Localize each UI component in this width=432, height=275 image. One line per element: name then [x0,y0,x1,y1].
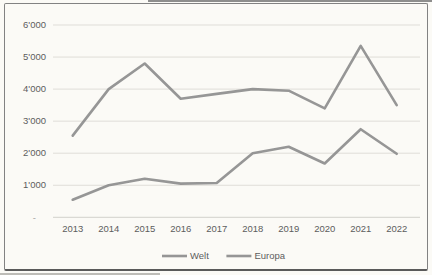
y-axis-tick-label: 6'000 [23,19,46,30]
x-axis-tick-label: 2019 [278,223,299,234]
x-axis-tick-label: 2016 [170,223,191,234]
series-line-europa [73,129,397,200]
y-axis-tick-label: - [33,212,36,223]
y-axis-tick-label: 4'000 [23,83,46,94]
legend-label-europa: Europa [254,250,285,261]
x-axis-tick-label: 2018 [242,223,263,234]
scanned-line-chart: -1'0002'0003'0004'0005'0006'000201320142… [0,0,432,275]
x-axis-tick-label: 2020 [314,223,335,234]
y-axis-tick-label: 3'000 [23,115,46,126]
x-axis-tick-label: 2014 [98,223,119,234]
x-axis-tick-label: 2013 [62,223,83,234]
x-axis-tick-label: 2017 [206,223,227,234]
y-axis-tick-label: 2'000 [23,147,46,158]
y-axis-tick-label: 1'000 [23,179,46,190]
x-axis-tick-label: 2021 [350,223,371,234]
chart-canvas: -1'0002'0003'0004'0005'0006'000201320142… [0,0,432,275]
legend-label-welt: Welt [190,250,209,261]
series-line-welt [73,46,397,136]
y-axis-tick-label: 5'000 [23,51,46,62]
x-axis-tick-label: 2015 [134,223,155,234]
x-axis-tick-label: 2022 [386,223,407,234]
